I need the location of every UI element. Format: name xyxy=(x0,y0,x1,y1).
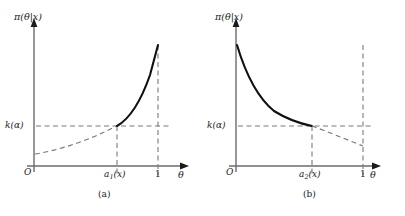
panel-a-y-axis-label: π(θ|x) xyxy=(14,12,42,22)
panel-b-y-axis-label: π(θ|x) xyxy=(215,12,243,22)
panel-b-origin-label: O xyxy=(226,168,233,177)
panel-a-curve-dashed xyxy=(35,126,117,154)
panel-b-cut-label: a2(x) xyxy=(299,170,321,180)
panel-a-origin-label: O xyxy=(24,168,31,177)
panel-a-cut-label: a1(x) xyxy=(104,170,126,180)
panel-a-curve-solid xyxy=(117,45,158,126)
panel-b-curve-dashed xyxy=(312,126,363,146)
panel-b-one-label: 1 xyxy=(360,170,366,179)
panel-a-threshold-label: k(α) xyxy=(5,121,24,130)
panel-a-x-axis-label: θ xyxy=(178,170,184,180)
panel-b-cut-label-arg: (x) xyxy=(309,169,321,179)
panel-b-threshold-label: k(α) xyxy=(207,121,226,130)
panel-b-x-axis-label: θ xyxy=(370,170,376,180)
panel-a-cut-label-arg: (x) xyxy=(114,169,126,179)
figure-canvas xyxy=(0,0,405,216)
figure-container: π(θ|x) θ O k(α) a1(x) 1 (a) π(θ|x) θ O k… xyxy=(0,0,405,216)
panel-b-curve-solid xyxy=(237,45,312,126)
panel-a-one-label: 1 xyxy=(155,170,161,179)
panel-b-caption: (b) xyxy=(303,190,316,199)
panel-a-caption: (a) xyxy=(98,190,110,199)
panel-b-group xyxy=(229,18,381,175)
panel-a-group xyxy=(27,18,189,175)
